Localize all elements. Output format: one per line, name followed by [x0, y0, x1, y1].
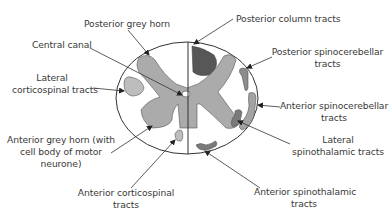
label-line: Anterior spinothalamic: [254, 186, 354, 198]
central-canal: [182, 91, 190, 97]
label-line: tracts: [76, 199, 176, 211]
label-posterior-column: Posterior column tracts: [236, 13, 340, 25]
label-posterior-grey-horn: Posterior grey horn: [84, 18, 170, 30]
label-line: tracts: [254, 198, 354, 210]
leader-posterior-grey-horn: [128, 30, 149, 55]
label-posterior-spinocerebellar: Posterior spinocerebellar tracts: [270, 46, 385, 70]
label-line: spinothalamic tracts: [288, 146, 388, 158]
label-line: tracts: [279, 112, 389, 124]
label-line: Lateral: [12, 72, 92, 84]
label-anterior-grey-horn: Anterior grey horn (with cell body of mo…: [6, 134, 116, 170]
label-line: Anterior spinocerebellar: [279, 100, 389, 112]
label-central-canal: Central canal: [32, 39, 92, 51]
leader-anterior-spinocerebellar: [258, 105, 280, 107]
label-anterior-spinocerebellar: Anterior spinocerebellar tracts: [279, 100, 389, 124]
label-line: Anterior grey horn (with: [6, 134, 116, 146]
label-line: corticospinal tracts: [12, 84, 92, 96]
label-anterior-corticospinal: Anterior corticospinal tracts: [76, 187, 176, 211]
label-lateral-corticospinal: Lateral corticospinal tracts: [12, 72, 92, 96]
leader-posterior-column: [194, 19, 233, 44]
anterior-corticospinal-tracts: [175, 130, 183, 141]
label-line: Lateral: [288, 134, 388, 146]
leader-lateral-spinothalamic: [238, 121, 290, 144]
leader-posterior-spinocerebellar: [247, 57, 272, 68]
label-lateral-spinothalamic: Lateral spinothalamic tracts: [288, 134, 388, 158]
leader-anterior-spinothalamic: [205, 151, 260, 188]
label-line: Posterior spinocerebellar: [270, 46, 385, 58]
label-line: tracts: [270, 58, 385, 70]
label-line: neurone): [6, 158, 116, 170]
label-line: Anterior corticospinal: [76, 187, 176, 199]
label-line: cell body of motor: [6, 146, 116, 158]
label-anterior-spinothalamic: Anterior spinothalamic tracts: [254, 186, 354, 210]
